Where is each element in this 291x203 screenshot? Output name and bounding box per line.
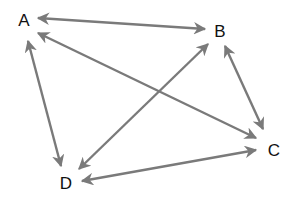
- edge-a-d-double-arrow-icon: [28, 41, 61, 166]
- node-label-a: A: [18, 11, 30, 30]
- node-label-c: C: [268, 141, 280, 160]
- node-label-b: B: [214, 22, 225, 41]
- node-label-d: D: [60, 174, 72, 193]
- edge-b-c-double-arrow-icon: [225, 46, 263, 129]
- graph-diagram: ABCD: [0, 0, 291, 203]
- edges-group: [28, 18, 263, 181]
- edge-c-d-double-arrow-icon: [82, 150, 256, 181]
- edge-a-b-double-arrow-icon: [38, 18, 205, 29]
- edge-a-c-double-arrow-icon: [38, 33, 256, 138]
